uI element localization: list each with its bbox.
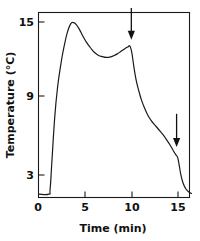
chart-figure: 15 9 3 0 5 10 15 Time (min) Temperature … <box>0 0 200 241</box>
y-tick-label-9: 9 <box>26 90 34 103</box>
chart-svg: 15 9 3 0 5 10 15 Time (min) Temperature … <box>0 0 200 241</box>
x-axis-title: Time (min) <box>79 222 146 235</box>
y-tick-label-15: 15 <box>19 16 34 29</box>
y-axis-ticks <box>39 22 45 175</box>
arrow-2-head <box>173 138 180 147</box>
temperature-curve <box>39 22 191 194</box>
arrow-1-head <box>128 31 135 40</box>
y-tick-label-3: 3 <box>26 169 34 182</box>
x-tick-label-5: 5 <box>81 201 89 214</box>
plot-frame <box>39 13 190 198</box>
x-tick-label-10: 10 <box>124 201 140 214</box>
x-axis-ticks <box>85 192 178 198</box>
x-tick-label-0: 0 <box>34 201 42 214</box>
x-tick-label-15: 15 <box>170 201 185 214</box>
y-axis-title: Temperature (°C) <box>4 52 17 159</box>
